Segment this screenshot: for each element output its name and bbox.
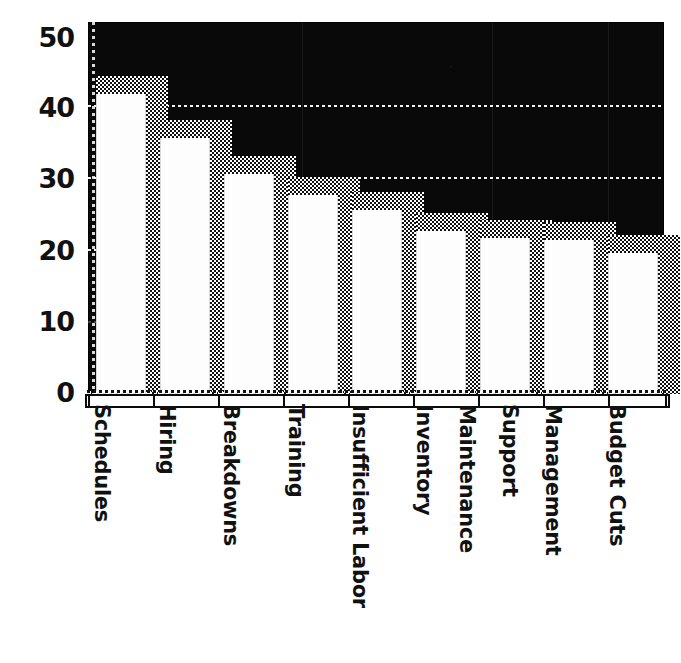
y-tick-label: 30 [38,165,74,192]
bar-front-face [544,238,594,394]
bar-maintenance[interactable] [480,228,552,394]
bar-front-face [288,193,338,394]
bar-front-face [224,172,274,394]
x-label-insufficient-labor: Insufficient Labor [348,404,372,608]
x-label-breakdowns: Breakdowns [219,404,243,546]
bar-top-face [352,192,424,210]
bar-top-face [544,222,616,240]
bar-schedules[interactable] [96,84,168,394]
bar-front-face [608,251,658,394]
bar-hiring[interactable] [160,128,232,394]
x-label-training: Training [284,404,308,497]
bar-training[interactable] [288,185,360,394]
bar-side-face [656,243,680,394]
x-label-maintenance: Maintenance [455,404,479,553]
x-label-budget-cuts: Budget Cuts [605,404,629,546]
bar-inventory[interactable] [416,221,488,394]
y-tick-label: 50 [38,24,74,51]
x-label-support: Support [498,404,522,497]
bar-top-face [608,235,680,253]
y-tick-label: 0 [56,379,74,406]
plot-area [88,22,664,394]
x-axis-labels: Schedules Hiring Breakdowns Training Ins… [88,404,664,663]
x-label-schedules: Schedules [90,404,114,522]
bar-front-face [96,92,146,394]
bar-top-face [224,156,296,174]
x-label-management: Management [541,404,565,556]
bar-front-face [160,136,210,394]
bar-top-face [416,213,488,231]
bar-series [88,22,664,394]
bar-top-face [96,76,168,94]
bar-top-face [288,177,360,195]
floor-top-dots [87,390,668,393]
bar-top-face [480,220,552,238]
y-tick-label: 10 [38,308,74,335]
bar-management[interactable] [544,230,616,394]
bar-front-face [416,229,466,394]
x-label-hiring: Hiring [155,404,179,475]
bar-budget-cuts[interactable] [608,243,680,394]
bar-front-face [352,208,402,394]
bar-chart: 50 40 30 20 10 0 [0,0,681,663]
y-tick-label: 20 [38,237,74,264]
y-axis: 50 40 30 20 10 0 [0,0,86,410]
bar-insufficient-labor[interactable] [352,200,424,394]
bar-top-face [160,120,232,138]
bar-breakdowns[interactable] [224,164,296,394]
bar-front-face [480,236,530,394]
x-tick [665,395,667,407]
y-tick-label: 40 [38,94,74,121]
x-label-inventory: Inventory [412,404,436,515]
